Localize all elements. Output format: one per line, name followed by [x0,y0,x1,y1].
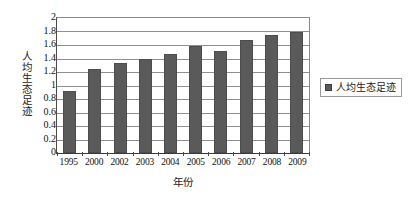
chart-legend[interactable]: 人均生态足迹 [320,78,402,97]
bar-slot [183,18,208,153]
legend-swatch-icon [325,84,332,91]
x-axis-tick-label: 2000 [81,157,106,171]
bar-slot [158,18,183,153]
y-axis-tick-label: 1.2 [30,65,56,77]
y-axis-tick-label: 1 [30,79,56,91]
bar-slot [57,18,82,153]
x-axis-tick-label: 2003 [132,157,157,171]
bar[interactable] [114,63,127,153]
x-axis-tick [284,152,285,156]
bar-slot [133,18,158,153]
x-axis-tick [208,152,209,156]
x-axis-tick-label: 2006 [208,157,233,171]
bar-slot [107,18,132,153]
x-axis-tick [158,152,159,156]
x-axis-tick [233,152,234,156]
y-axis-tick-label: 1.6 [30,38,56,50]
bar[interactable] [164,54,177,153]
bar-slot [82,18,107,153]
bar[interactable] [63,91,76,153]
x-axis-tick [133,152,134,156]
legend-label: 人均生态足迹 [336,82,396,93]
x-axis-title: 年份 [56,174,310,189]
x-axis-tick-label: 2008 [259,157,284,171]
x-axis-tick-label: 2002 [107,157,132,171]
x-axis-tick [107,152,108,156]
x-axis-tick-label: 2007 [234,157,259,171]
bar[interactable] [88,69,101,153]
y-axis-tick-label: 1.8 [30,25,56,37]
x-axis-tick-label: 2004 [158,157,183,171]
x-axis-tick-label: 2005 [183,157,208,171]
y-axis-tick-label: 0.2 [30,133,56,145]
bar[interactable] [189,46,202,153]
x-axis-ticks [56,152,310,156]
bars-layer [57,18,309,153]
y-axis-tick-label: 1.4 [30,52,56,64]
y-axis-tick-label: 0.4 [30,119,56,131]
y-axis-tick-label: 0 [30,146,56,158]
x-axis-tick [183,152,184,156]
bar[interactable] [265,35,278,153]
x-axis-tick [57,152,58,156]
bar[interactable] [240,40,253,153]
bar[interactable] [290,32,303,153]
x-axis-tick-label: 2009 [285,157,310,171]
bar[interactable] [214,51,227,153]
bar-slot [208,18,233,153]
y-axis-tick-label: 2 [30,11,56,23]
y-axis-tick-label: 0.6 [30,106,56,118]
y-axis-tick-label: 0.8 [30,92,56,104]
bar-slot [233,18,258,153]
plot-area [56,17,310,154]
y-axis-title: 人均生态足迹 [15,41,31,126]
bar-slot [284,18,309,153]
x-axis-tick [259,152,260,156]
bar[interactable] [139,59,152,154]
bar-slot [259,18,284,153]
x-axis-tick-label: 1995 [56,157,81,171]
x-axis-tick [82,152,83,156]
y-axis-tick-labels: 21.81.61.41.210.80.60.40.20 [30,11,56,157]
x-axis-tick-labels: 1995200020022003200420052006200720082009 [56,157,310,171]
bar-chart-figure: 人均生态足迹 21.81.61.41.210.80.60.40.20 19952… [0,0,419,200]
x-axis-tick [309,152,310,156]
